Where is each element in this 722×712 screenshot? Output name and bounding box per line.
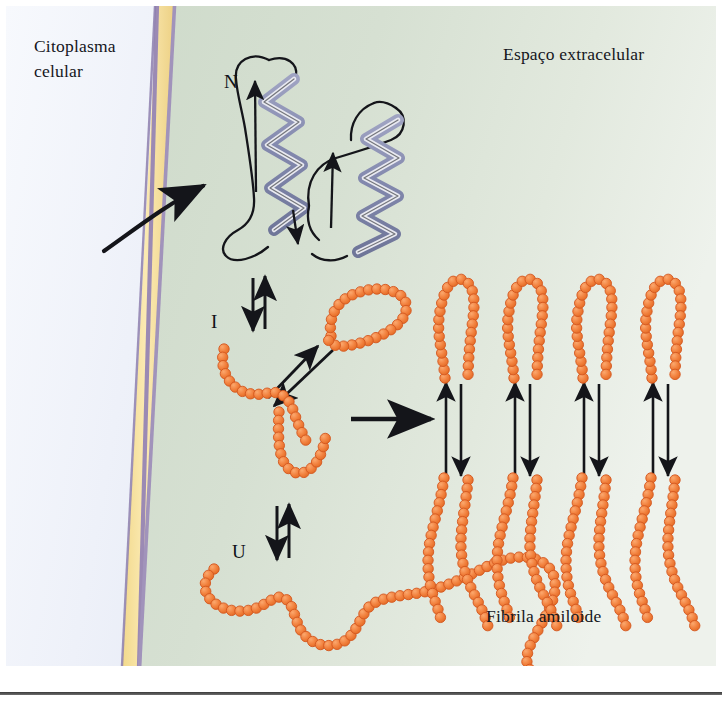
cytoplasm-label: Citoplasma celular bbox=[34, 34, 116, 84]
intermediate-state-label: I bbox=[211, 311, 217, 333]
diagram-svg bbox=[6, 6, 716, 666]
figure-panel: Citoplasma celular Espaço extracelular F… bbox=[6, 6, 716, 690]
native-state-label: N bbox=[224, 71, 238, 93]
bottom-rule bbox=[0, 692, 722, 695]
n-terminus-arrow bbox=[255, 81, 256, 192]
fibril-label: Fibrila amiloide bbox=[486, 604, 601, 629]
extracellular-label: Espaço extracelular bbox=[503, 42, 644, 67]
diagram-canvas: Citoplasma celular Espaço extracelular F… bbox=[6, 6, 716, 666]
unfolded-state-label: U bbox=[232, 541, 246, 563]
